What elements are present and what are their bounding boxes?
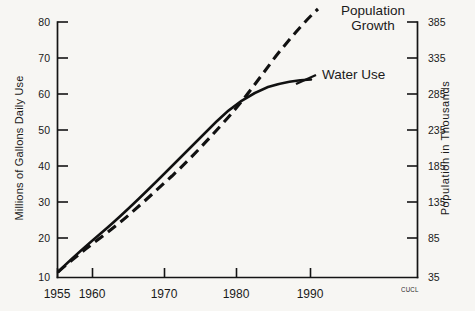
series-label-water-use: Water Use (322, 67, 385, 82)
right-axis-ticks (407, 22, 418, 238)
plot-area (0, 0, 475, 311)
x-axis-ticks (58, 268, 311, 278)
chart-figure: Millions of Gallons Daily Use Population… (0, 0, 475, 311)
axis-lines (58, 22, 418, 278)
series-line-population-growth (58, 9, 318, 272)
corner-credit-label: CUCL (401, 285, 419, 294)
series-label-population-line1: Population (313, 3, 433, 18)
left-axis-ticks (58, 22, 69, 238)
series-line-water-use (58, 80, 311, 273)
series-label-population-line2: Growth (313, 18, 433, 33)
series-label-population-growth: Population Growth (313, 3, 433, 33)
